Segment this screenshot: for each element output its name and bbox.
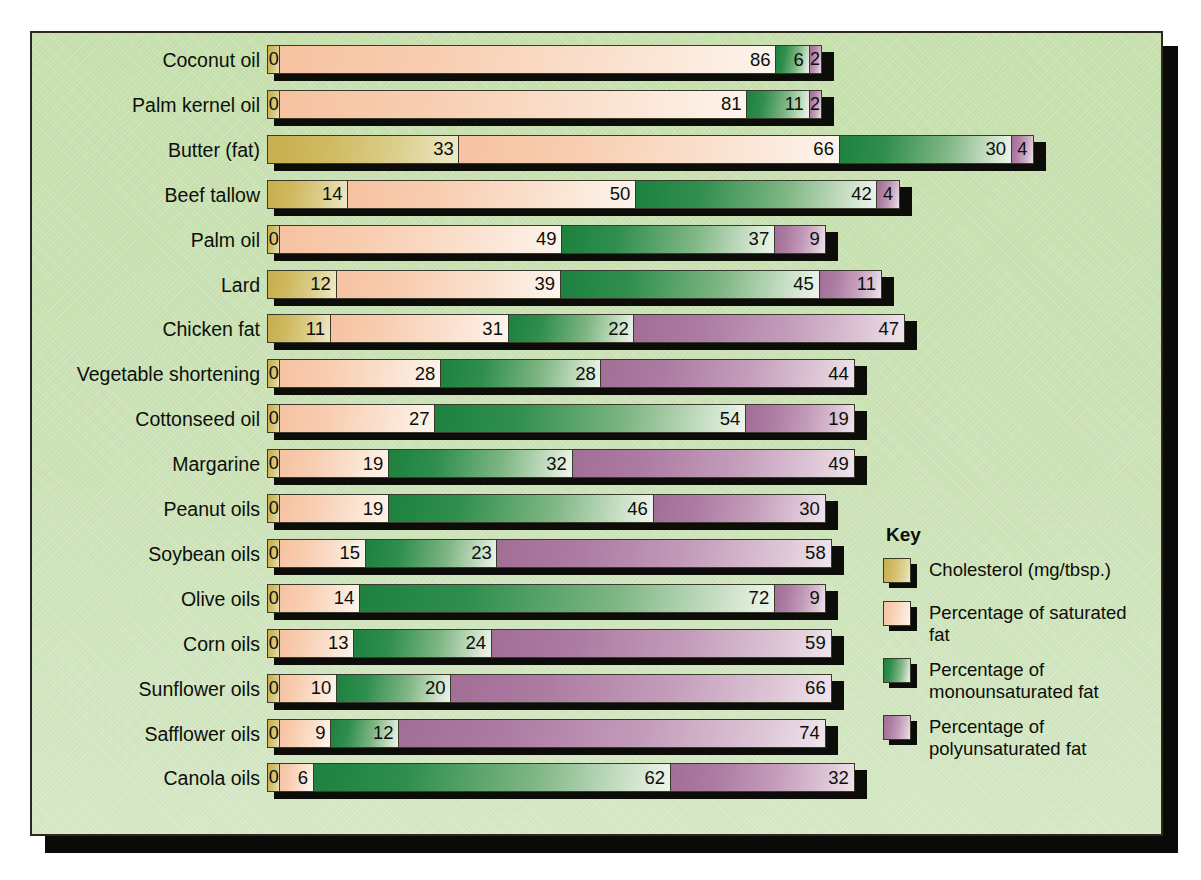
- legend-swatch: [883, 715, 911, 740]
- bar-segment-polyunsaturated: 74: [398, 719, 826, 748]
- segment-value: 0: [269, 229, 279, 250]
- chart-row: Margarine0193249: [32, 449, 1161, 480]
- legend-swatch: [883, 601, 911, 626]
- bar-segment-monounsaturated: 12: [330, 719, 399, 748]
- bar-segment-monounsaturated: 24: [353, 629, 492, 658]
- segment-value: 0: [269, 767, 279, 788]
- category-label: Cottonseed oil: [32, 404, 260, 435]
- segment-value: 11: [785, 93, 804, 115]
- legend-title: Key: [886, 524, 1146, 546]
- bar-segment-monounsaturated: 30: [839, 135, 1012, 164]
- stacked-bar: 091274: [268, 719, 831, 748]
- segment-value: 14: [322, 183, 343, 205]
- chart-row: Palm kernel oil081112: [32, 90, 1161, 121]
- category-label: Peanut oils: [32, 494, 260, 525]
- bar-segment-cholesterol: 12: [267, 270, 337, 299]
- bar-segment-monounsaturated: 22: [508, 314, 635, 343]
- bar-segment-polyunsaturated: 9: [774, 584, 826, 613]
- bar-segment-saturated: 6: [279, 763, 314, 792]
- segment-value: 30: [985, 138, 1006, 160]
- chart-row: Palm oil049379: [32, 225, 1161, 256]
- bar-segment-cholesterol: 11: [267, 314, 331, 343]
- segment-value: 0: [269, 543, 279, 564]
- bar-segment-monounsaturated: 72: [359, 584, 775, 613]
- segment-value: 0: [269, 453, 279, 474]
- legend-item: Cholesterol (mg/tbsp.): [884, 558, 1146, 588]
- segment-value: 45: [793, 273, 814, 295]
- segment-value: 66: [813, 138, 834, 160]
- bar-segment-saturated: 9: [279, 719, 331, 748]
- stacked-bar: 0275419: [268, 404, 860, 433]
- stacked-bar: 12394511: [268, 270, 887, 299]
- category-label: Vegetable shortening: [32, 359, 260, 390]
- legend-label: Percentage of monounsaturated fat: [929, 658, 1146, 702]
- segment-value: 86: [750, 49, 771, 71]
- bar-segment-saturated: 14: [279, 584, 360, 613]
- segment-value: 49: [828, 453, 849, 475]
- segment-value: 44: [828, 363, 849, 385]
- bar-segment-saturated: 28: [279, 359, 441, 388]
- bar-segment-monounsaturated: 23: [365, 539, 498, 568]
- segment-value: 22: [608, 318, 629, 340]
- segment-value: 23: [471, 542, 492, 564]
- segment-value: 81: [721, 93, 742, 115]
- segment-value: 4: [883, 184, 893, 205]
- segment-value: 27: [409, 408, 430, 430]
- segment-value: 32: [546, 453, 567, 475]
- segment-value: 9: [810, 587, 820, 609]
- bar-segment-polyunsaturated: 2: [809, 45, 822, 74]
- chart-row: Cottonseed oil0275419: [32, 404, 1161, 435]
- segment-value: 0: [269, 94, 279, 115]
- segment-value: 28: [415, 363, 436, 385]
- segment-value: 30: [799, 498, 820, 520]
- stacked-bar: 0282844: [268, 359, 860, 388]
- category-label: Chicken fat: [32, 314, 260, 345]
- chart-row: Butter (fat)3366304: [32, 135, 1161, 166]
- bar-segment-saturated: 50: [347, 180, 636, 209]
- segment-value: 20: [425, 677, 446, 699]
- segment-value: 31: [482, 318, 503, 340]
- bar-segment-polyunsaturated: 66: [450, 674, 831, 703]
- bar-segment-monounsaturated: 32: [388, 449, 573, 478]
- segment-value: 39: [534, 273, 555, 295]
- segment-value: 6: [298, 767, 308, 789]
- category-label: Butter (fat): [32, 135, 260, 166]
- stacked-bar: 0193249: [268, 449, 860, 478]
- legend-label: Percentage of polyunsaturated fat: [929, 715, 1146, 759]
- legend-items: Cholesterol (mg/tbsp.)Percentage of satu…: [884, 558, 1146, 759]
- category-label: Canola oils: [32, 763, 260, 794]
- legend-swatch-wrap: [884, 715, 918, 745]
- bar-segment-polyunsaturated: 49: [572, 449, 855, 478]
- segment-value: 11: [857, 273, 876, 295]
- bar-segment-polyunsaturated: 11: [819, 270, 883, 299]
- segment-value: 28: [575, 363, 596, 385]
- bar-segment-monounsaturated: 11: [746, 90, 810, 119]
- legend-label: Percentage of saturated fat: [929, 601, 1146, 645]
- segment-value: 66: [805, 677, 826, 699]
- bar-segment-polyunsaturated: 30: [653, 494, 826, 523]
- category-label: Corn oils: [32, 629, 260, 660]
- stacked-bar: 0152358: [268, 539, 837, 568]
- stacked-bar: 014729: [268, 584, 831, 613]
- segment-value: 0: [269, 363, 279, 384]
- segment-value: 4: [1017, 139, 1027, 160]
- segment-value: 2: [810, 94, 820, 115]
- segment-value: 47: [879, 318, 900, 340]
- legend-swatch: [883, 558, 911, 583]
- segment-value: 2: [810, 49, 820, 70]
- segment-value: 11: [306, 318, 325, 340]
- bar-segment-monounsaturated: 20: [336, 674, 452, 703]
- chart-panel: Coconut oil08662Palm kernel oil081112But…: [30, 31, 1163, 836]
- category-label: Coconut oil: [32, 45, 260, 76]
- bar-segment-saturated: 27: [279, 404, 435, 433]
- segment-value: 15: [340, 542, 361, 564]
- bar-segment-saturated: 19: [279, 494, 389, 523]
- chart-legend: Key Cholesterol (mg/tbsp.)Percentage of …: [884, 524, 1146, 772]
- category-label: Beef tallow: [32, 180, 260, 211]
- chart-row: Peanut oils0194630: [32, 494, 1161, 525]
- bar-segment-cholesterol: 14: [267, 180, 349, 209]
- segment-value: 9: [810, 228, 820, 250]
- bar-segment-monounsaturated: 46: [388, 494, 654, 523]
- bar-segment-polyunsaturated: 58: [496, 539, 831, 568]
- segment-value: 0: [269, 678, 279, 699]
